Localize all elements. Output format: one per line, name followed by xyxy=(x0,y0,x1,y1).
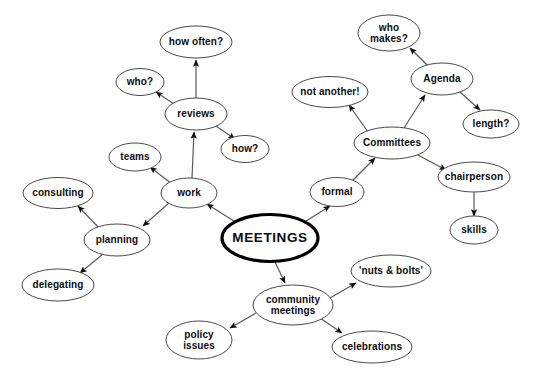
node-label-teams: teams xyxy=(120,151,150,162)
node-not-another[interactable]: not another! xyxy=(292,77,368,108)
node-formal[interactable]: formal xyxy=(310,178,364,207)
link-committees-to-chairperson xyxy=(416,154,446,170)
node-label-community: communitymeetings xyxy=(266,293,321,315)
node-length[interactable]: length? xyxy=(463,110,519,138)
node-label-consulting: consulting xyxy=(32,187,84,198)
link-work-to-teams xyxy=(150,167,172,184)
node-policy[interactable]: policyissues xyxy=(166,321,232,359)
link-community-to-celebrations xyxy=(320,318,342,333)
node-label-chairperson: chairperson xyxy=(445,171,503,182)
mind-map-canvas: MEETINGSworkreviewshow often?who?how?tea… xyxy=(0,0,534,382)
node-consulting[interactable]: consulting xyxy=(23,178,93,209)
link-community-to-policy xyxy=(230,313,256,328)
node-label-formal: formal xyxy=(321,186,352,197)
link-community-to-nuts-bolts xyxy=(330,283,356,298)
node-label-meetings: MEETINGS xyxy=(232,230,307,245)
node-reviews[interactable]: reviews xyxy=(165,98,227,130)
node-label-celebrations: celebrations xyxy=(342,341,402,352)
node-label-who: who? xyxy=(126,76,154,87)
link-committees-to-agenda xyxy=(404,95,425,128)
node-label-nuts-bolts: 'nuts & bolts' xyxy=(359,265,423,276)
link-meetings-to-community xyxy=(275,262,285,283)
link-work-to-planning xyxy=(143,202,170,226)
node-work[interactable]: work xyxy=(161,178,217,208)
node-how[interactable]: how? xyxy=(221,136,269,163)
link-planning-to-delegating xyxy=(80,254,103,273)
node-celebrations[interactable]: celebrations xyxy=(332,331,412,363)
node-label-work: work xyxy=(176,187,201,198)
node-label-reviews: reviews xyxy=(177,108,215,119)
link-agenda-to-length xyxy=(460,92,480,110)
node-how-often[interactable]: how often? xyxy=(160,26,232,58)
link-planning-to-consulting xyxy=(78,206,99,228)
link-meetings-to-formal xyxy=(303,206,330,223)
node-label-policy: policyissues xyxy=(183,328,215,350)
node-label-how-often: how often? xyxy=(169,36,223,47)
mind-map-svg: MEETINGSworkreviewshow often?who?how?tea… xyxy=(0,0,534,382)
node-label-skills: skills xyxy=(461,224,487,235)
node-chairperson[interactable]: chairperson xyxy=(438,162,510,192)
node-label-how: how? xyxy=(232,143,259,154)
node-who-makes[interactable]: whomakes? xyxy=(358,15,420,51)
link-work-to-reviews xyxy=(192,132,194,178)
node-skills[interactable]: skills xyxy=(450,216,498,244)
link-meetings-to-work xyxy=(207,204,237,223)
node-community[interactable]: communitymeetings xyxy=(253,285,333,325)
link-formal-to-committees xyxy=(352,158,375,181)
node-meetings[interactable]: MEETINGS xyxy=(222,215,318,262)
node-label-planning: planning xyxy=(96,234,138,245)
node-delegating[interactable]: delegating xyxy=(22,269,94,301)
node-committees[interactable]: Committees xyxy=(354,127,430,159)
nodes-layer: MEETINGSworkreviewshow often?who?how?tea… xyxy=(22,15,519,363)
node-label-not-another: not another! xyxy=(300,86,360,97)
link-committees-to-not-another xyxy=(349,105,368,132)
node-planning[interactable]: planning xyxy=(84,224,150,256)
node-teams[interactable]: teams xyxy=(109,143,161,171)
node-label-length: length? xyxy=(473,118,510,129)
node-label-committees: Committees xyxy=(363,137,422,148)
node-nuts-bolts[interactable]: 'nuts & bolts' xyxy=(351,255,431,287)
link-reviews-to-who xyxy=(156,92,174,104)
node-who[interactable]: who? xyxy=(116,69,164,96)
node-agenda[interactable]: Agenda xyxy=(411,63,473,95)
node-label-delegating: delegating xyxy=(32,279,83,290)
node-label-agenda: Agenda xyxy=(423,73,461,84)
link-agenda-to-who-makes xyxy=(410,48,428,66)
